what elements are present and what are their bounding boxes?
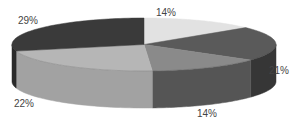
- slice-label-1: 21%: [269, 65, 289, 76]
- slice-label-2: 14%: [197, 108, 217, 119]
- slice-label-3: 22%: [14, 98, 34, 109]
- slice-label-4: 29%: [18, 15, 38, 26]
- pie-top-faces: [12, 18, 276, 71]
- pie-chart: 14%21%14%22%29%: [0, 0, 307, 127]
- pie-chart-canvas: 14%21%14%22%29%: [0, 0, 307, 127]
- slice-label-0: 14%: [156, 7, 176, 18]
